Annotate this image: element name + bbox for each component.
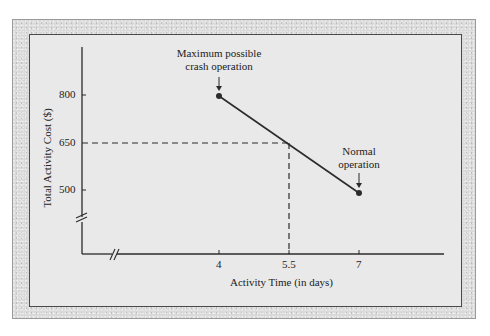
crash-annotation: Maximum possible crash operation xyxy=(169,47,269,73)
x-tick-label-5-5: 5.5 xyxy=(282,259,296,270)
normal-point xyxy=(356,190,362,196)
y-tick-label-800: 800 xyxy=(59,89,76,100)
x-axis-title: Activity Time (in days) xyxy=(230,276,333,288)
crash-point xyxy=(216,93,222,99)
y-tick-label-500: 500 xyxy=(59,184,76,195)
x-tick-label-4: 4 xyxy=(216,259,222,270)
normal-annotation-line1: Normal xyxy=(324,145,394,158)
normal-annotation: Normal operation xyxy=(324,145,394,171)
x-tick-label-7: 7 xyxy=(356,259,362,270)
crash-annotation-line2: crash operation xyxy=(169,60,269,73)
y-axis-title: Total Activity Cost ($) xyxy=(41,97,53,219)
crash-annotation-line1: Maximum possible xyxy=(169,47,269,60)
normal-annotation-line2: operation xyxy=(324,158,394,171)
arrow-down-icon xyxy=(216,77,222,91)
y-tick-label-650: 650 xyxy=(59,137,76,148)
arrow-down-icon xyxy=(356,173,362,188)
